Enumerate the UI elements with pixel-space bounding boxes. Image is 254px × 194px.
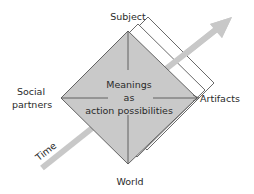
label-artifacts: Artifacts xyxy=(200,93,240,104)
label-partners: partners xyxy=(12,99,52,110)
label-world: World xyxy=(116,176,143,187)
center-text-line2: as xyxy=(124,92,135,103)
label-social: Social xyxy=(17,86,45,97)
diagram-canvas: Meanings as action possibilities Subject… xyxy=(0,0,254,194)
label-subject: Subject xyxy=(110,11,146,22)
center-text-line1: Meanings xyxy=(106,79,152,90)
center-text-line3: action possibilities xyxy=(85,105,173,116)
